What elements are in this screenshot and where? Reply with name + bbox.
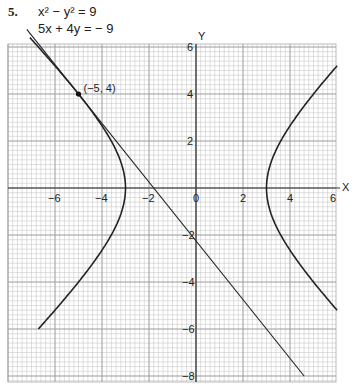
grid xyxy=(8,44,336,382)
y-tick-label: 6 xyxy=(187,41,193,53)
y-tick-label: −4 xyxy=(182,276,195,288)
y-tick-label: 2 xyxy=(187,135,193,147)
x-tick-label: 0 xyxy=(193,192,199,204)
tangent-point xyxy=(76,91,81,96)
x-axis-label: X xyxy=(342,181,350,193)
y-tick-label: −8 xyxy=(182,370,195,382)
y-axis-label: Y xyxy=(198,30,206,42)
x-tick-label: −6 xyxy=(48,192,61,204)
x-tick-label: −4 xyxy=(95,192,108,204)
x-tick-label: 2 xyxy=(240,192,246,204)
tangent-point-label: (−5, 4) xyxy=(84,82,116,94)
x-tick-label: −2 xyxy=(142,192,155,204)
x-tick-label: 6 xyxy=(330,192,336,204)
y-tick-label: −6 xyxy=(182,323,195,335)
x-tick-label: 4 xyxy=(287,192,293,204)
graph: XY−6−4−20246642−2−4−6−8(−5, 4) xyxy=(0,0,357,384)
y-tick-label: 4 xyxy=(187,88,193,100)
